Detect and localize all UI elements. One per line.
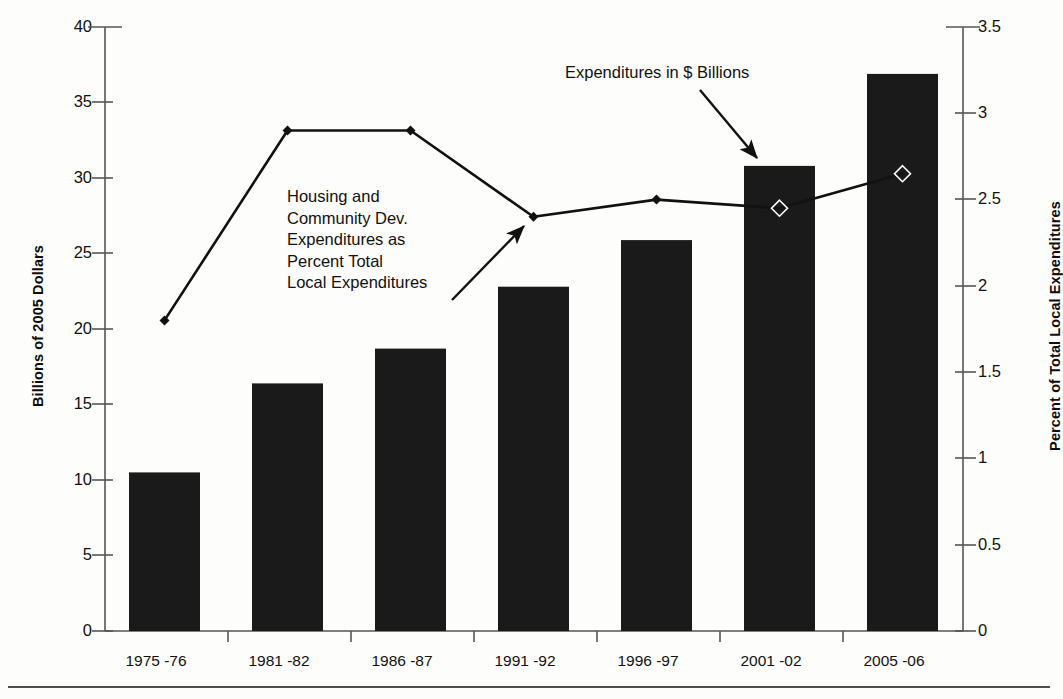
bar-2005-06 bbox=[867, 74, 938, 631]
y-axis-right-ticks bbox=[955, 113, 976, 631]
bar-1986-87 bbox=[375, 349, 446, 631]
x-axis-ticks bbox=[228, 631, 843, 642]
y-axis-left-ticks bbox=[92, 102, 113, 631]
bar-1996-97 bbox=[621, 240, 692, 631]
footer-divider bbox=[8, 686, 1050, 688]
bar-series bbox=[129, 74, 938, 631]
bar-annotation-arrow bbox=[700, 90, 757, 158]
bar-2001-02 bbox=[744, 166, 815, 631]
marker-1996-97 bbox=[652, 195, 662, 205]
bar-1991-92 bbox=[498, 287, 569, 631]
bar-1981-82 bbox=[252, 383, 323, 631]
annotation-arrows bbox=[452, 90, 757, 300]
line-markers-filled bbox=[160, 126, 662, 326]
bar-1975-76 bbox=[129, 472, 200, 631]
